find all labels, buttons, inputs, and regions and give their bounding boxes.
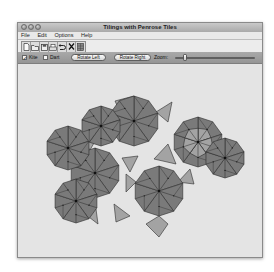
window-title: Tilings with Penrose Tiles bbox=[18, 23, 262, 32]
new-document-icon bbox=[23, 43, 30, 51]
dart-label: Dart bbox=[50, 54, 59, 61]
decagon-cluster[interactable] bbox=[55, 179, 97, 223]
tiling-canvas[interactable] bbox=[18, 64, 262, 257]
penrose-tiling[interactable] bbox=[18, 64, 262, 257]
dart-tile[interactable] bbox=[146, 216, 168, 237]
open-button[interactable] bbox=[31, 42, 40, 52]
controls-bar: ✓ Kite Dart Rotate Left Rotate Right Zoo… bbox=[18, 52, 262, 64]
dart-tile[interactable] bbox=[114, 204, 130, 222]
undo-icon bbox=[58, 44, 66, 51]
dart-tile[interactable] bbox=[156, 102, 172, 122]
menu-edit[interactable]: Edit bbox=[34, 32, 49, 39]
print-button[interactable] bbox=[49, 42, 58, 52]
zoom-label: Zoom: bbox=[154, 54, 168, 61]
cut-icon bbox=[68, 43, 75, 51]
zoom-slider-track[interactable] bbox=[175, 57, 255, 59]
cut-button[interactable] bbox=[67, 42, 76, 52]
app-window: Tilings with Penrose Tiles File Edit Opt… bbox=[17, 22, 263, 258]
rotate-left-button[interactable]: Rotate Left bbox=[71, 54, 106, 61]
menu-options[interactable]: Options bbox=[51, 32, 76, 39]
save-button[interactable] bbox=[40, 42, 49, 52]
grid-icon bbox=[77, 43, 84, 51]
menu-bar: File Edit Options Help bbox=[18, 32, 262, 40]
menu-file[interactable]: File bbox=[18, 32, 33, 39]
decagon-cluster[interactable] bbox=[206, 138, 244, 178]
dart-tile[interactable] bbox=[154, 144, 176, 164]
tile-grid-button[interactable] bbox=[76, 42, 85, 52]
rotate-right-button[interactable]: Rotate Right bbox=[114, 54, 151, 61]
save-disk-icon bbox=[41, 44, 48, 51]
menu-help[interactable]: Help bbox=[78, 32, 95, 39]
undo-button[interactable] bbox=[58, 42, 67, 52]
dart-tile[interactable] bbox=[126, 174, 136, 192]
kite-label: Kite bbox=[29, 54, 38, 61]
decagon-cluster[interactable] bbox=[82, 106, 120, 146]
kite-checkbox[interactable]: ✓ bbox=[22, 55, 27, 60]
dart-tile[interactable] bbox=[122, 156, 138, 172]
zoom-slider-thumb[interactable] bbox=[183, 54, 187, 61]
new-document-button[interactable] bbox=[22, 42, 31, 52]
open-folder-icon bbox=[31, 44, 39, 51]
dart-checkbox[interactable] bbox=[43, 55, 48, 60]
decagon-cluster[interactable] bbox=[135, 166, 183, 216]
print-icon bbox=[49, 44, 57, 51]
